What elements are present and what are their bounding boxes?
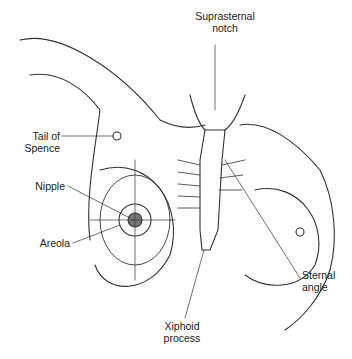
label-line: Xiphoid: [152, 320, 212, 332]
label-line: Spence: [5, 142, 60, 154]
label-suprasternal-notch: Suprasternal notch: [190, 10, 260, 34]
label-line: Sternal: [302, 269, 352, 281]
label-tail-of-spence: Tail of Spence: [5, 130, 60, 154]
label-line: Suprasternal: [190, 10, 260, 22]
label-xiphoid-process: Xiphoid process: [152, 320, 212, 344]
label-line: process: [152, 332, 212, 344]
label-areola: Areola: [5, 237, 70, 249]
label-sternal-angle: Sternal angle: [302, 269, 352, 293]
label-nipple: Nipple: [5, 180, 65, 192]
label-line: angle: [302, 281, 352, 293]
label-line: Tail of: [5, 130, 60, 142]
label-line: notch: [190, 22, 260, 34]
